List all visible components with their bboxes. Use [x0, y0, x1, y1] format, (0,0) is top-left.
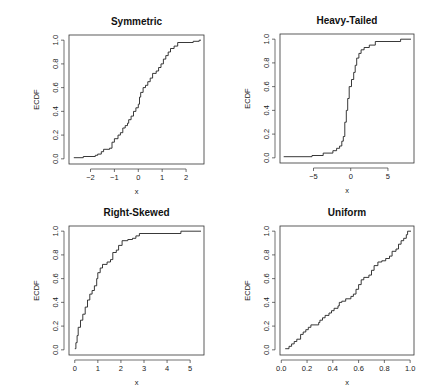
y-tick-label: 0.4 — [51, 297, 60, 307]
x-axis-label: x — [345, 186, 349, 195]
ecdf-step-line — [74, 40, 201, 158]
y-axis: 0.00.20.40.60.81.0 — [51, 226, 64, 355]
y-tick-label: 0.0 — [51, 345, 60, 355]
y-tick-label: 0.6 — [262, 273, 271, 283]
y-tick-label: 0.2 — [262, 321, 271, 331]
y-tick-label: 0.2 — [262, 129, 271, 139]
chart-title: Symmetric — [111, 16, 163, 27]
y-tick-label: 0.8 — [262, 58, 271, 68]
panel-heavy-tailed: Heavy-Tailed−505x0.00.20.40.60.81.0ECDF — [243, 15, 414, 195]
y-tick-label: 0.8 — [51, 59, 60, 69]
x-axis: −2−1012 — [86, 169, 188, 182]
x-axis: 0.00.20.40.60.81.0 — [276, 360, 415, 373]
y-tick-label: 1.0 — [262, 34, 271, 44]
plot-frame — [69, 226, 204, 355]
x-tick-label: −2 — [86, 173, 95, 182]
x-tick-label: 0 — [349, 172, 353, 181]
ecdf-step-line — [75, 231, 201, 349]
ecdf-figure: Symmetric−2−1012x0.00.20.40.60.81.0ECDF … — [0, 0, 437, 390]
x-tick-label: 3 — [142, 364, 146, 373]
x-tick-label: 5 — [188, 364, 192, 373]
plot-frame — [280, 34, 414, 163]
x-tick-label: 0 — [73, 364, 77, 373]
x-tick-label: 4 — [165, 364, 169, 373]
y-axis-label: ECDF — [243, 280, 252, 301]
y-axis: 0.00.20.40.60.81.0 — [262, 34, 275, 163]
x-tick-label: 5 — [386, 172, 390, 181]
plot-frame — [280, 226, 414, 355]
y-tick-label: 0.6 — [262, 81, 271, 91]
x-tick-label: 2 — [184, 173, 188, 182]
x-tick-label: 0 — [136, 173, 140, 182]
y-tick-label: 1.0 — [51, 35, 60, 45]
x-tick-label: 0.8 — [379, 364, 389, 373]
y-tick-label: 0.6 — [51, 82, 60, 92]
y-axis: 0.00.20.40.60.81.0 — [51, 35, 64, 164]
x-axis-label: x — [345, 378, 349, 387]
chart-title: Heavy-Tailed — [317, 15, 378, 26]
y-tick-label: 0.8 — [262, 250, 271, 260]
y-tick-label: 0.0 — [262, 345, 271, 355]
y-tick-label: 1.0 — [262, 226, 271, 236]
x-tick-label: 1 — [160, 173, 164, 182]
y-tick-label: 0.4 — [51, 106, 60, 116]
x-tick-label: −1 — [110, 173, 119, 182]
y-tick-label: 0.0 — [51, 154, 60, 164]
ecdf-step-line — [285, 231, 411, 349]
x-axis-label: x — [135, 187, 139, 196]
x-tick-label: 0.2 — [302, 364, 312, 373]
x-tick-label: 1.0 — [405, 364, 415, 373]
y-tick-label: 1.0 — [51, 226, 60, 236]
y-tick-label: 0.6 — [51, 273, 60, 283]
y-axis-label: ECDF — [32, 89, 41, 110]
x-axis-label: x — [135, 378, 139, 387]
plot-frame — [69, 35, 204, 164]
x-tick-label: 0.0 — [276, 364, 286, 373]
x-tick-label: 0.6 — [353, 364, 363, 373]
panel-uniform: Uniform0.00.20.40.60.81.0x0.00.20.40.60.… — [243, 207, 415, 387]
x-axis: −505 — [309, 168, 390, 181]
y-tick-label: 0.4 — [262, 297, 271, 307]
chart-title: Uniform — [328, 207, 366, 218]
panel-right-skewed: Right-Skewed012345x0.00.20.40.60.81.0ECD… — [32, 207, 204, 387]
y-axis-label: ECDF — [243, 88, 252, 109]
y-tick-label: 0.4 — [262, 105, 271, 115]
x-tick-label: 2 — [119, 364, 123, 373]
x-tick-label: 1 — [96, 364, 100, 373]
y-axis-label: ECDF — [32, 280, 41, 301]
x-axis: 012345 — [73, 360, 193, 373]
x-tick-label: −5 — [309, 172, 318, 181]
y-tick-label: 0.8 — [51, 250, 60, 260]
y-tick-label: 0.0 — [262, 153, 271, 163]
y-axis: 0.00.20.40.60.81.0 — [262, 226, 275, 355]
ecdf-step-line — [284, 39, 411, 157]
panel-symmetric: Symmetric−2−1012x0.00.20.40.60.81.0ECDF — [32, 16, 204, 196]
y-tick-label: 0.2 — [51, 321, 60, 331]
y-tick-label: 0.2 — [51, 130, 60, 140]
chart-title: Right-Skewed — [103, 207, 169, 218]
x-tick-label: 0.4 — [328, 364, 338, 373]
